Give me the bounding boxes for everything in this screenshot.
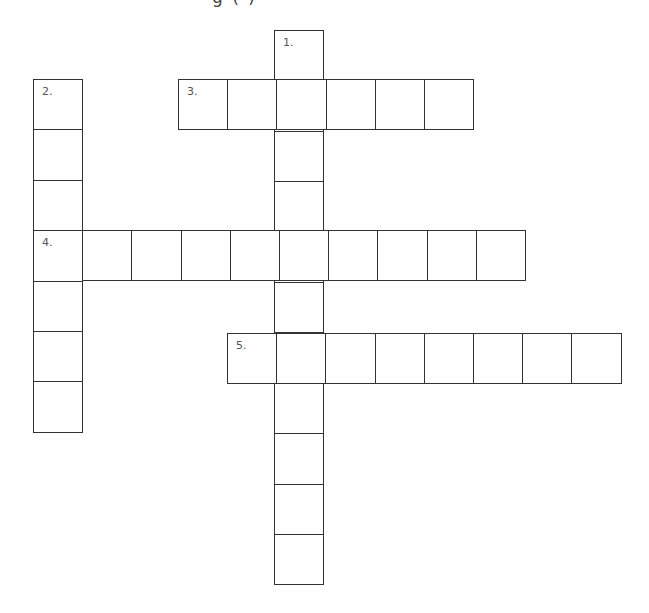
crossword-cell[interactable] [424, 333, 474, 384]
heading-fragment: g ( ) [212, 0, 257, 7]
crossword-cell[interactable] [325, 333, 375, 384]
crossword-cell[interactable] [274, 534, 324, 585]
crossword-cell[interactable] [375, 79, 425, 130]
crossword-cell[interactable] [522, 333, 572, 384]
crossword-cell[interactable] [33, 129, 83, 180]
crossword-cell[interactable] [473, 333, 523, 384]
crossword-cell[interactable] [571, 333, 621, 384]
crossword-cell[interactable] [377, 230, 427, 281]
crossword-cell[interactable]: 1. [274, 30, 324, 81]
crossword-cell[interactable] [33, 381, 83, 432]
clue-number-4: 4. [42, 237, 53, 248]
crossword-cell[interactable] [181, 230, 231, 281]
crossword-cell[interactable] [227, 79, 277, 130]
crossword-cell[interactable] [274, 433, 324, 484]
clue-number-1: 1. [283, 37, 294, 48]
crossword-cell[interactable]: 4. [33, 230, 83, 281]
crossword-cell[interactable] [328, 230, 378, 281]
crossword-cell[interactable] [33, 180, 83, 231]
crossword-cell[interactable]: 2. [33, 79, 83, 130]
crossword-cell[interactable]: 3. [178, 79, 228, 130]
crossword-cell[interactable] [274, 383, 324, 434]
clue-number-3: 3. [187, 86, 198, 97]
crossword-cell[interactable] [375, 333, 425, 384]
crossword-cell[interactable] [230, 230, 280, 281]
crossword-cell[interactable] [33, 331, 83, 382]
crossword-cell[interactable] [33, 281, 83, 332]
crossword-cell[interactable] [274, 131, 324, 182]
crossword-cell[interactable]: 5. [227, 333, 277, 384]
crossword-cell[interactable] [274, 181, 324, 232]
crossword-cell[interactable] [276, 333, 326, 384]
crossword-cell[interactable] [427, 230, 477, 281]
crossword-cell[interactable] [274, 484, 324, 535]
crossword-cell[interactable] [82, 230, 132, 281]
crossword-cell[interactable] [326, 79, 376, 130]
clue-number-2: 2. [42, 86, 53, 97]
crossword-cell[interactable] [276, 79, 326, 130]
crossword-cell[interactable] [131, 230, 181, 281]
clue-number-5: 5. [236, 340, 247, 351]
crossword-cell[interactable] [274, 282, 324, 333]
crossword-cell[interactable] [279, 230, 329, 281]
crossword-cell[interactable] [424, 79, 474, 130]
crossword-cell[interactable] [476, 230, 526, 281]
